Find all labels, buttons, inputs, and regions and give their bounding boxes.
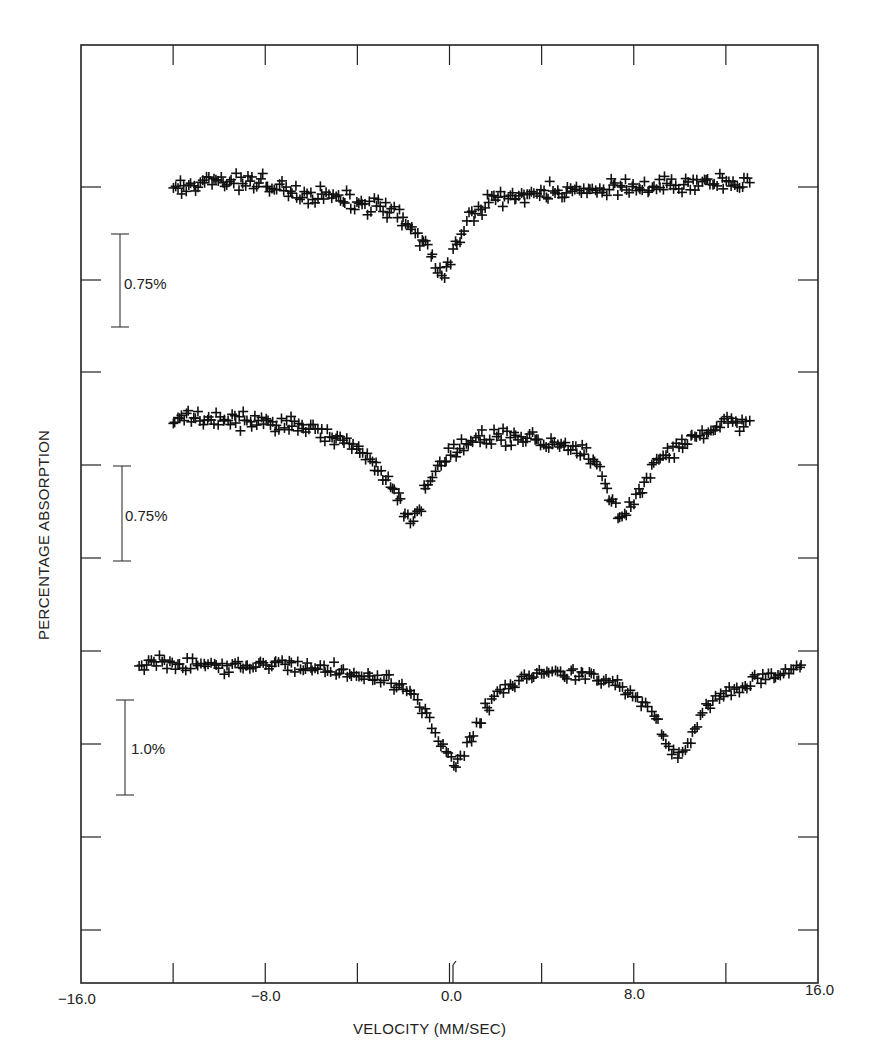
data-point (545, 176, 555, 186)
data-point (482, 190, 492, 200)
data-point (692, 722, 702, 732)
x-axis-title: VELOCITY (MM/SEC) (353, 1020, 506, 1037)
data-point (315, 181, 325, 191)
data-point (657, 729, 667, 739)
spectrum-bottom (134, 650, 806, 772)
x-tick-label-8: 8.0 (624, 985, 645, 1002)
data-point (624, 497, 634, 507)
data-point (494, 429, 504, 439)
data-point (541, 192, 551, 202)
data-point (168, 418, 178, 428)
spectrum-middle (168, 406, 754, 529)
data-point (184, 180, 194, 190)
data-point (541, 442, 551, 452)
data-point (159, 655, 169, 665)
scale-bar-bottom: 1.0% (116, 700, 165, 795)
mossbauer-chart: −16.0 −8.0 0.0 8.0 16.0 VELOCITY (MM/SEC… (0, 0, 874, 1064)
data-point (456, 434, 466, 444)
spectrum-top (168, 168, 754, 283)
data-point (658, 731, 668, 741)
y-axis-title: PERCENTAGE ABSORPTION (35, 430, 52, 640)
data-point (616, 181, 626, 191)
x-tick-label-neg8: −8.0 (251, 987, 281, 1004)
data-point (647, 460, 657, 470)
data-point (747, 672, 757, 682)
data-point (247, 422, 257, 432)
data-point (279, 423, 289, 433)
data-point (467, 737, 477, 747)
data-point (469, 216, 479, 226)
data-point (639, 177, 649, 187)
data-point (602, 483, 612, 493)
scale-bar-bottom-label: 1.0% (131, 740, 165, 757)
data-point (520, 198, 530, 208)
data-point (415, 702, 425, 712)
data-point (235, 426, 245, 436)
data-point (435, 263, 445, 273)
scale-bar-middle: 0.75% (113, 466, 168, 561)
data-point (606, 497, 616, 507)
x-tick-label-zero: 0.0 (441, 987, 462, 1004)
zero-velocity-marker (453, 961, 456, 983)
data-point (290, 667, 300, 677)
data-point (662, 443, 672, 453)
data-point (258, 168, 268, 178)
data-point (796, 660, 806, 670)
data-point (632, 692, 642, 702)
data-point (506, 440, 516, 450)
data-point (669, 453, 679, 463)
data-point (322, 424, 332, 434)
data-point (426, 252, 436, 262)
x-tick-label-neg16: −16.0 (58, 990, 96, 1007)
scale-bar-middle-label: 0.75% (125, 507, 168, 524)
data-point (745, 178, 755, 188)
data-point (219, 669, 229, 679)
data-point (222, 661, 232, 671)
data-point (427, 249, 437, 259)
data-point (329, 440, 339, 450)
data-point (612, 675, 622, 685)
data-point (451, 762, 461, 772)
data-point (384, 670, 394, 680)
data-point (352, 197, 362, 207)
data-point (388, 483, 398, 493)
scale-bar-top: 0.75% (111, 234, 167, 327)
data-point (498, 201, 508, 211)
x-tick-label-16: 16.0 (805, 981, 834, 998)
data-point (489, 425, 499, 435)
data-point (436, 741, 446, 751)
data-point (476, 718, 486, 728)
data-point (276, 413, 286, 423)
data-point (319, 194, 329, 204)
scale-bar-top-label: 0.75% (124, 275, 167, 292)
data-point (300, 664, 310, 674)
data-point (697, 708, 707, 718)
data-point (695, 710, 705, 720)
data-point (329, 657, 339, 667)
